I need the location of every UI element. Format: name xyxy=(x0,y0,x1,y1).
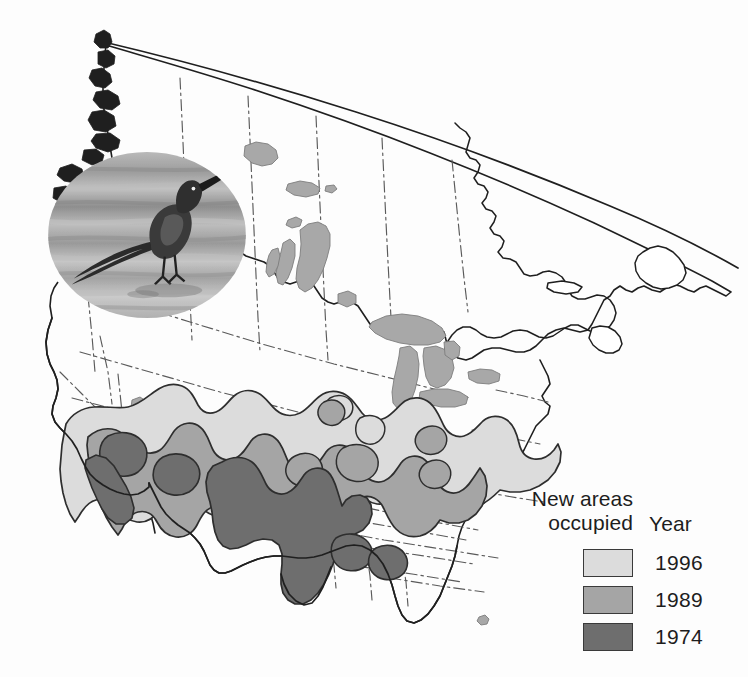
range-1989-outlier-iowa xyxy=(318,400,345,425)
legend-rows: 1996 1989 1974 xyxy=(515,545,730,656)
bird-photo-svg xyxy=(48,152,246,318)
legend-title-line2: occupied xyxy=(515,511,633,535)
range-expansion-map: New areas occupied Year 1996 1989 xyxy=(0,0,748,677)
swatch-1996 xyxy=(583,549,633,577)
range-1974-newmexico-core xyxy=(153,454,200,495)
legend-year-header: Year xyxy=(633,512,692,536)
legend-title-line1: New areas xyxy=(515,487,633,511)
lake-of-the-woods xyxy=(338,291,356,307)
water-splash xyxy=(127,290,159,298)
swatch-cell-1989 xyxy=(515,586,633,614)
swatch-1989 xyxy=(583,586,633,614)
range-1996-outlier-a xyxy=(356,416,385,445)
legend-header: New areas occupied Year xyxy=(515,487,730,536)
legend-year-1989: 1989 xyxy=(633,588,703,612)
legend-row-1989: 1989 xyxy=(515,582,730,619)
bird-photo-inset xyxy=(48,152,246,318)
swatch-1974 xyxy=(583,623,633,651)
swatch-cell-1974 xyxy=(515,623,633,651)
legend-year-1974: 1974 xyxy=(633,625,703,649)
legend-row-1996: 1996 xyxy=(515,545,730,582)
swatch-cell-1996 xyxy=(515,549,633,577)
legend-year-1996: 1996 xyxy=(633,551,703,575)
map-legend: New areas occupied Year 1996 1989 xyxy=(515,487,730,656)
range-1974-gulf-louisiana xyxy=(331,534,372,571)
range-1989-outlier-east xyxy=(415,426,447,454)
range-1989-outlier-missouri xyxy=(336,445,378,482)
range-1989-outlier-gulf xyxy=(419,460,451,488)
legend-row-1974: 1974 xyxy=(515,619,730,656)
bird-eye xyxy=(192,187,196,191)
legend-title: New areas occupied xyxy=(515,487,633,536)
